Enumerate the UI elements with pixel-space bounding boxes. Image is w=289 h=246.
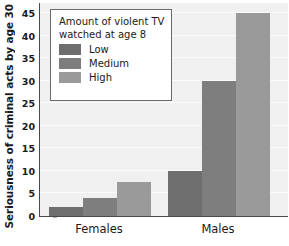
y-axis-tick-label: 15 <box>17 145 35 155</box>
y-axis-tick-label: 25 <box>17 100 35 110</box>
x-axis-label-females: Females <box>75 222 123 236</box>
y-axis-tick-label: 10 <box>17 167 35 177</box>
bar-females-low <box>49 207 83 216</box>
y-axis-tick-label: 20 <box>17 122 35 132</box>
legend-title: Amount of violent TV watched at age 8 <box>59 16 167 41</box>
legend-entry-high: High <box>59 72 171 83</box>
bar-males-medium <box>202 81 236 216</box>
legend-label-high: High <box>89 73 112 83</box>
legend-swatch-low <box>59 44 81 55</box>
y-axis-tick-label: 35 <box>17 55 35 65</box>
bar-females-medium <box>83 198 117 216</box>
legend-label-low: Low <box>89 45 109 55</box>
legend-label-medium: Medium <box>89 59 129 69</box>
bar-males-low <box>168 171 202 216</box>
y-axis-tick-label: 0 <box>17 212 35 222</box>
bar-males-high <box>236 13 270 216</box>
y-axis-tick-label: 45 <box>17 10 35 20</box>
y-axis-title-text: Seriousness of criminal acts by age 30 <box>3 4 15 228</box>
bar-females-high <box>117 182 151 216</box>
legend: Amount of violent TV watched at age 8 Lo… <box>50 9 172 101</box>
x-axis-label-males: Males <box>201 222 234 236</box>
legend-entries: LowMediumHigh <box>59 44 171 83</box>
y-axis-tick-label: 5 <box>17 190 35 200</box>
y-axis-tick-labels: 051015202530354045 <box>17 0 35 246</box>
y-axis-tick-label: 40 <box>17 32 35 42</box>
legend-entry-medium: Medium <box>59 58 171 69</box>
legend-swatch-high <box>59 72 81 83</box>
legend-swatch-medium <box>59 58 81 69</box>
y-axis-tick-label: 30 <box>17 77 35 87</box>
legend-entry-low: Low <box>59 44 171 55</box>
chart-figure: Seriousness of criminal acts by age 30 0… <box>0 0 289 246</box>
y-axis-title: Seriousness of criminal acts by age 30 <box>0 0 18 232</box>
